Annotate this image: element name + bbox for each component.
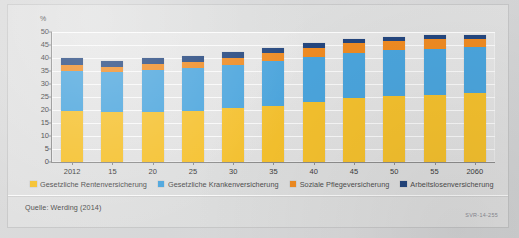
bar-segment[interactable] xyxy=(303,48,325,57)
stacked-bar[interactable] xyxy=(303,43,325,162)
bar-segment[interactable] xyxy=(383,96,405,162)
bar-segment[interactable] xyxy=(424,95,446,162)
bar-segment[interactable] xyxy=(343,98,365,162)
bar-slot: 2060 xyxy=(455,32,495,162)
figure-code: SVR-14-255 xyxy=(465,212,498,218)
legend-swatch-icon xyxy=(158,181,165,188)
y-axis-tick-label: 35 xyxy=(41,67,49,75)
stacked-bar[interactable] xyxy=(61,58,83,162)
x-axis-tick-mark xyxy=(314,162,315,165)
x-axis-tick-mark xyxy=(233,162,234,165)
bar-segment[interactable] xyxy=(464,39,486,47)
bar-slot: 45 xyxy=(334,32,374,162)
bar-slot: 2012 xyxy=(52,32,92,162)
y-axis-tick-label: 0 xyxy=(45,158,49,166)
x-axis-tick-mark xyxy=(475,162,476,165)
legend-swatch-icon xyxy=(400,181,407,188)
bar-segment[interactable] xyxy=(61,71,83,111)
chart-legend: Gesetzliche RentenversicherungGesetzlich… xyxy=(30,177,498,191)
bar-slot: 35 xyxy=(253,32,293,162)
bar-group: 20121520253035404550552060 xyxy=(52,32,495,162)
y-axis-tick-label: 30 xyxy=(41,80,49,88)
x-axis-tick-label: 55 xyxy=(430,167,438,176)
bar-segment[interactable] xyxy=(101,112,123,162)
bar-segment[interactable] xyxy=(464,47,486,93)
chart-figure: % 05101520253035404550 20121520253035404… xyxy=(8,5,508,227)
plot-area: 05101520253035404550 2012152025303540455… xyxy=(51,32,495,163)
x-axis-tick-label: 20 xyxy=(148,167,156,176)
y-axis-tick-label: 45 xyxy=(41,41,49,49)
stacked-bar[interactable] xyxy=(424,35,446,162)
stacked-bar[interactable] xyxy=(262,48,284,162)
bar-segment[interactable] xyxy=(262,61,284,106)
bar-segment[interactable] xyxy=(262,106,284,162)
bar-segment[interactable] xyxy=(61,58,83,66)
bar-segment[interactable] xyxy=(343,53,365,98)
x-axis-tick-label: 35 xyxy=(269,167,277,176)
bar-segment[interactable] xyxy=(61,111,83,162)
bar-segment[interactable] xyxy=(424,49,446,95)
legend-item[interactable]: Soziale Pflegeversicherung xyxy=(290,180,390,189)
x-axis-tick-mark xyxy=(112,162,113,165)
stacked-bar[interactable] xyxy=(343,39,365,162)
y-axis-tick-label: 20 xyxy=(41,106,49,114)
bar-slot: 25 xyxy=(173,32,213,162)
bar-segment[interactable] xyxy=(222,108,244,162)
bar-segment[interactable] xyxy=(303,57,325,102)
legend-item[interactable]: Gesetzliche Krankenversicherung xyxy=(158,180,279,189)
y-axis-tick-label: 25 xyxy=(41,93,49,101)
bar-segment[interactable] xyxy=(303,102,325,162)
bar-slot: 30 xyxy=(213,32,253,162)
x-axis-tick-mark xyxy=(72,162,73,165)
stacked-bar[interactable] xyxy=(182,56,204,162)
y-axis-tick-label: 40 xyxy=(41,54,49,62)
screenshot-page: % 05101520253035404550 20121520253035404… xyxy=(0,0,519,238)
bar-segment[interactable] xyxy=(383,50,405,95)
bar-segment[interactable] xyxy=(182,68,204,110)
stacked-bar[interactable] xyxy=(464,35,486,162)
stacked-bar[interactable] xyxy=(142,58,164,162)
x-axis-tick-label: 30 xyxy=(229,167,237,176)
y-axis-tick-label: 5 xyxy=(45,145,49,153)
bar-segment[interactable] xyxy=(343,43,365,52)
legend-item[interactable]: Arbeitslosenversicherung xyxy=(400,180,493,189)
y-axis-tick-label: 15 xyxy=(41,119,49,127)
bar-segment[interactable] xyxy=(424,39,446,49)
bar-segment[interactable] xyxy=(182,111,204,162)
bar-segment[interactable] xyxy=(142,112,164,162)
x-axis-tick-label: 2012 xyxy=(64,167,81,176)
legend-swatch-icon xyxy=(30,181,37,188)
legend-label: Soziale Pflegeversicherung xyxy=(300,180,390,189)
legend-item[interactable]: Gesetzliche Rentenversicherung xyxy=(30,180,147,189)
source-note: Quelle: Werding (2014) xyxy=(25,203,101,212)
bar-segment[interactable] xyxy=(464,93,486,162)
stacked-bar[interactable] xyxy=(383,37,405,162)
legend-label: Arbeitslosenversicherung xyxy=(410,180,493,189)
x-axis-tick-label: 15 xyxy=(108,167,116,176)
x-axis-tick-label: 2060 xyxy=(466,167,483,176)
legend-swatch-icon xyxy=(290,181,297,188)
bar-segment[interactable] xyxy=(383,41,405,51)
x-axis-tick-label: 40 xyxy=(310,167,318,176)
stacked-bar[interactable] xyxy=(101,61,123,162)
bar-segment[interactable] xyxy=(222,58,244,65)
bar-segment[interactable] xyxy=(142,70,164,112)
x-axis-tick-label: 45 xyxy=(350,167,358,176)
bar-slot: 20 xyxy=(133,32,173,162)
bar-segment[interactable] xyxy=(222,65,244,109)
bar-segment[interactable] xyxy=(101,72,123,112)
x-axis-tick-mark xyxy=(394,162,395,165)
y-axis-tick-label: 50 xyxy=(41,28,49,36)
bar-slot: 50 xyxy=(374,32,414,162)
bar-segment[interactable] xyxy=(262,53,284,61)
x-axis-tick-mark xyxy=(193,162,194,165)
bar-slot: 55 xyxy=(414,32,454,162)
x-axis-tick-mark xyxy=(354,162,355,165)
y-axis-tick-label: 10 xyxy=(41,132,49,140)
x-axis-tick-mark xyxy=(273,162,274,165)
x-axis-tick-label: 50 xyxy=(390,167,398,176)
stacked-bar[interactable] xyxy=(222,52,244,162)
x-axis-tick-mark xyxy=(153,162,154,165)
legend-label: Gesetzliche Krankenversicherung xyxy=(168,180,279,189)
y-axis-unit-label: % xyxy=(40,15,46,22)
